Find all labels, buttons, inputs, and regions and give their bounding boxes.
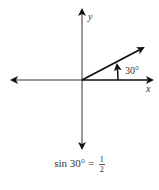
y-axis-label: y — [87, 11, 93, 22]
fraction: 1 2 — [99, 155, 105, 174]
fraction-denominator: 2 — [99, 165, 105, 174]
formula-equals: = — [88, 157, 94, 169]
angle-label: 30° — [125, 65, 139, 76]
fraction-numerator: 1 — [99, 155, 105, 165]
angle-arc-arrow — [117, 65, 118, 80]
sine-formula: sin 30° = 1 2 — [0, 155, 159, 174]
formula-function: sin — [54, 157, 67, 169]
formula-argument: 30° — [70, 157, 85, 169]
x-axis-label: x — [145, 83, 151, 94]
